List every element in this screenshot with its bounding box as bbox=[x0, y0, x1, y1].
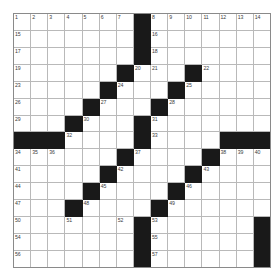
grid-cell[interactable] bbox=[48, 99, 65, 116]
grid-cell[interactable] bbox=[65, 48, 82, 65]
grid-cell[interactable] bbox=[151, 166, 168, 183]
grid-cell[interactable] bbox=[202, 183, 219, 200]
grid-cell[interactable] bbox=[134, 99, 151, 116]
grid-cell[interactable]: 20 bbox=[134, 65, 151, 82]
grid-cell[interactable]: 23 bbox=[14, 82, 31, 99]
grid-cell[interactable] bbox=[185, 149, 202, 166]
grid-cell[interactable] bbox=[83, 31, 100, 48]
grid-cell[interactable] bbox=[237, 166, 254, 183]
grid-cell[interactable] bbox=[237, 31, 254, 48]
grid-cell[interactable] bbox=[254, 116, 271, 133]
grid-cell[interactable] bbox=[65, 149, 82, 166]
grid-cell[interactable] bbox=[83, 166, 100, 183]
grid-cell[interactable]: 15 bbox=[14, 31, 31, 48]
grid-cell[interactable] bbox=[117, 183, 134, 200]
grid-cell[interactable] bbox=[220, 48, 237, 65]
grid-cell[interactable] bbox=[220, 200, 237, 217]
grid-cell[interactable] bbox=[31, 82, 48, 99]
crossword-grid[interactable]: 1234567891011121314151617181920212223242… bbox=[13, 13, 271, 268]
grid-cell[interactable] bbox=[83, 149, 100, 166]
grid-cell[interactable] bbox=[117, 251, 134, 268]
grid-cell[interactable] bbox=[65, 65, 82, 82]
grid-cell[interactable] bbox=[254, 82, 271, 99]
grid-cell[interactable]: 35 bbox=[31, 149, 48, 166]
grid-cell[interactable] bbox=[202, 132, 219, 149]
grid-cell[interactable] bbox=[134, 82, 151, 99]
grid-cell[interactable]: 1 bbox=[14, 14, 31, 31]
grid-cell[interactable] bbox=[220, 82, 237, 99]
grid-cell[interactable] bbox=[65, 251, 82, 268]
grid-cell[interactable] bbox=[220, 183, 237, 200]
grid-cell[interactable] bbox=[151, 149, 168, 166]
grid-cell[interactable] bbox=[185, 217, 202, 234]
grid-cell[interactable] bbox=[202, 217, 219, 234]
grid-cell[interactable]: 53 bbox=[151, 217, 168, 234]
grid-cell[interactable]: 8 bbox=[151, 14, 168, 31]
grid-cell[interactable] bbox=[151, 82, 168, 99]
grid-cell[interactable] bbox=[48, 217, 65, 234]
grid-cell[interactable]: 11 bbox=[202, 14, 219, 31]
grid-cell[interactable] bbox=[254, 183, 271, 200]
grid-cell[interactable]: 29 bbox=[14, 116, 31, 133]
grid-cell[interactable] bbox=[168, 48, 185, 65]
grid-cell[interactable] bbox=[83, 82, 100, 99]
grid-cell[interactable] bbox=[100, 200, 117, 217]
grid-cell[interactable]: 44 bbox=[14, 183, 31, 200]
grid-cell[interactable] bbox=[100, 48, 117, 65]
grid-cell[interactable] bbox=[202, 99, 219, 116]
grid-cell[interactable]: 41 bbox=[14, 166, 31, 183]
grid-cell[interactable]: 16 bbox=[151, 31, 168, 48]
grid-cell[interactable] bbox=[31, 200, 48, 217]
grid-cell[interactable] bbox=[31, 217, 48, 234]
grid-cell[interactable]: 55 bbox=[151, 234, 168, 251]
grid-cell[interactable] bbox=[83, 234, 100, 251]
grid-cell[interactable] bbox=[168, 251, 185, 268]
grid-cell[interactable]: 30 bbox=[83, 116, 100, 133]
grid-cell[interactable] bbox=[48, 200, 65, 217]
grid-cell[interactable] bbox=[83, 217, 100, 234]
grid-cell[interactable] bbox=[65, 31, 82, 48]
grid-cell[interactable] bbox=[237, 200, 254, 217]
grid-cell[interactable] bbox=[31, 31, 48, 48]
grid-cell[interactable]: 34 bbox=[14, 149, 31, 166]
grid-cell[interactable]: 43 bbox=[202, 166, 219, 183]
grid-cell[interactable]: 4 bbox=[65, 14, 82, 31]
grid-cell[interactable] bbox=[220, 217, 237, 234]
grid-cell[interactable] bbox=[202, 48, 219, 65]
grid-cell[interactable] bbox=[220, 116, 237, 133]
grid-cell[interactable] bbox=[117, 132, 134, 149]
grid-cell[interactable] bbox=[254, 99, 271, 116]
grid-cell[interactable] bbox=[48, 48, 65, 65]
grid-cell[interactable] bbox=[254, 166, 271, 183]
grid-cell[interactable] bbox=[185, 31, 202, 48]
grid-cell[interactable]: 22 bbox=[202, 65, 219, 82]
grid-cell[interactable] bbox=[168, 234, 185, 251]
grid-cell[interactable] bbox=[254, 31, 271, 48]
grid-cell[interactable] bbox=[185, 200, 202, 217]
grid-cell[interactable] bbox=[202, 234, 219, 251]
grid-cell[interactable]: 5 bbox=[83, 14, 100, 31]
grid-cell[interactable]: 49 bbox=[168, 200, 185, 217]
grid-cell[interactable] bbox=[31, 48, 48, 65]
grid-cell[interactable] bbox=[202, 251, 219, 268]
grid-cell[interactable]: 10 bbox=[185, 14, 202, 31]
grid-cell[interactable] bbox=[151, 183, 168, 200]
grid-cell[interactable] bbox=[100, 251, 117, 268]
grid-cell[interactable] bbox=[65, 183, 82, 200]
grid-cell[interactable] bbox=[48, 166, 65, 183]
grid-cell[interactable] bbox=[117, 48, 134, 65]
grid-cell[interactable] bbox=[168, 132, 185, 149]
grid-cell[interactable] bbox=[237, 251, 254, 268]
grid-cell[interactable] bbox=[168, 65, 185, 82]
grid-cell[interactable]: 27 bbox=[100, 99, 117, 116]
grid-cell[interactable] bbox=[220, 234, 237, 251]
grid-cell[interactable] bbox=[83, 65, 100, 82]
grid-cell[interactable]: 17 bbox=[14, 48, 31, 65]
grid-cell[interactable]: 50 bbox=[14, 217, 31, 234]
grid-cell[interactable] bbox=[185, 48, 202, 65]
grid-cell[interactable]: 26 bbox=[14, 99, 31, 116]
grid-cell[interactable]: 32 bbox=[65, 132, 82, 149]
grid-cell[interactable]: 14 bbox=[254, 14, 271, 31]
grid-cell[interactable] bbox=[185, 116, 202, 133]
grid-cell[interactable] bbox=[100, 31, 117, 48]
